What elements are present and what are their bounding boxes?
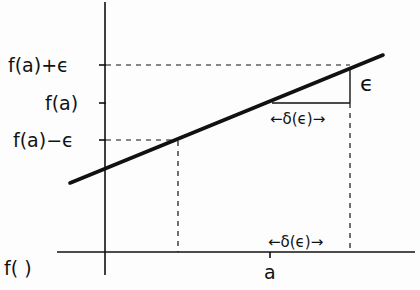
label-delta-lower: ←δ(ϵ)→ [268, 233, 323, 251]
function-line [70, 55, 383, 183]
label-f-a: f(a) [45, 92, 78, 114]
epsilon-delta-diagram: f(a)+ϵ f(a) f(a)−ϵ ϵ ←δ(ϵ)→ ←δ(ϵ)→ f( ) … [0, 0, 420, 290]
label-epsilon: ϵ [360, 71, 374, 96]
label-f-a-plus-eps: f(a)+ϵ [8, 54, 69, 76]
diagram-canvas: f(a)+ϵ f(a) f(a)−ϵ ϵ ←δ(ϵ)→ ←δ(ϵ)→ f( ) … [0, 0, 420, 290]
label-a: a [264, 261, 276, 283]
label-delta-upper: ←δ(ϵ)→ [270, 110, 325, 128]
label-f-a-minus-eps: f(a)−ϵ [13, 129, 74, 151]
label-x-axis-f: f( ) [4, 257, 32, 279]
